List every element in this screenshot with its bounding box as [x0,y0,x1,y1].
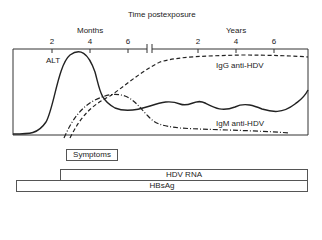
symptoms-bar: Symptoms [66,149,118,161]
igg-label: IgG anti-HDV [216,61,264,71]
igg-curve [70,55,308,138]
hdv-rna-label: HDV RNA [166,170,202,179]
symptoms-label: Symptoms [73,150,111,159]
igm-label: IgM anti-HDV [216,119,264,129]
hbsag-label: HBsAg [150,181,175,190]
alt-label: ALT [46,56,60,66]
igm-curve [64,94,290,138]
hbsag-bar: HBsAg [16,180,308,192]
